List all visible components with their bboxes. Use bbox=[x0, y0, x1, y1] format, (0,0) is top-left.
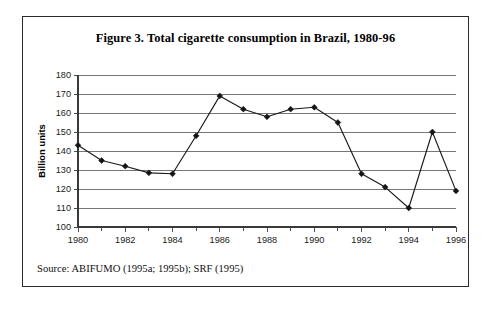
data-point-marker bbox=[170, 171, 176, 177]
x-tick-label: 1992 bbox=[351, 235, 371, 245]
data-point-marker bbox=[122, 163, 128, 169]
data-point-marker bbox=[311, 104, 317, 110]
y-tick-label: 120 bbox=[56, 184, 71, 194]
x-tick-label: 1990 bbox=[304, 235, 324, 245]
y-tick-label: 110 bbox=[56, 203, 71, 213]
data-series-group bbox=[75, 93, 459, 211]
y-tick-label: 150 bbox=[56, 127, 71, 137]
data-point-marker bbox=[75, 142, 81, 148]
data-point-marker bbox=[99, 158, 105, 164]
x-tick-label: 1994 bbox=[399, 235, 419, 245]
y-tick-label: 130 bbox=[56, 165, 71, 175]
y-axis-title: Billion units bbox=[36, 124, 47, 178]
y-tick-label: 140 bbox=[56, 146, 71, 156]
data-point-marker bbox=[146, 170, 152, 176]
y-tick-labels-group: 180170160150140130120110100 bbox=[56, 70, 71, 232]
figure-container: Figure 3. Total cigarette consumption in… bbox=[22, 16, 469, 287]
data-point-marker bbox=[264, 114, 270, 120]
y-tick-label: 100 bbox=[56, 222, 71, 232]
data-point-marker bbox=[193, 133, 199, 139]
gridlines-group bbox=[78, 75, 456, 227]
x-tick-label: 1980 bbox=[68, 235, 88, 245]
x-tick-labels-group: 198019821984198619881990199219941996 bbox=[68, 235, 466, 245]
x-tick-label: 1984 bbox=[162, 235, 182, 245]
y-tick-label: 180 bbox=[56, 70, 71, 80]
data-point-marker bbox=[335, 120, 341, 126]
y-tick-label: 160 bbox=[56, 108, 71, 118]
x-tick-label: 1996 bbox=[446, 235, 466, 245]
x-tick-label: 1986 bbox=[210, 235, 230, 245]
source-note: Source: ABIFUMO (1995a; 1995b); SRF (199… bbox=[37, 263, 243, 274]
x-tick-label: 1982 bbox=[115, 235, 135, 245]
data-point-marker bbox=[288, 106, 294, 112]
x-tick-label: 1988 bbox=[257, 235, 277, 245]
data-point-marker bbox=[359, 171, 365, 177]
data-point-marker bbox=[429, 129, 435, 135]
y-tick-label: 170 bbox=[56, 89, 71, 99]
data-point-marker bbox=[240, 106, 246, 112]
line-chart: 180170160150140130120110100 198019821984… bbox=[23, 17, 470, 288]
